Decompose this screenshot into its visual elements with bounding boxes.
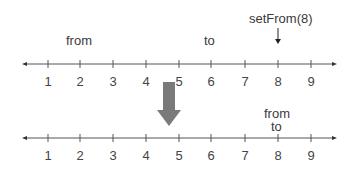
bottom-tick-label: 8: [274, 149, 281, 162]
set-from-call-label: setFrom(8): [249, 12, 313, 25]
top-tick-label: 6: [207, 75, 214, 88]
bottom-tick-label: 5: [175, 149, 182, 162]
bottom-tick-label: 4: [142, 149, 149, 162]
set-from-pointer-arrow: [275, 28, 281, 44]
bottom-tick-label: 1: [44, 149, 51, 162]
top-to-label: to: [204, 34, 215, 47]
top-number-line: [22, 60, 337, 68]
top-tick-label: 4: [142, 75, 149, 88]
top-tick-label: 5: [175, 75, 182, 88]
top-tick-label: 8: [274, 75, 281, 88]
bottom-tick-label: 2: [76, 149, 83, 162]
top-tick-label: 1: [44, 75, 51, 88]
top-tick-label: 9: [307, 75, 314, 88]
top-from-label: from: [66, 34, 92, 47]
bottom-number-line: [22, 134, 337, 142]
bottom-tick-label: 7: [241, 149, 248, 162]
bottom-tick-label: 3: [109, 149, 116, 162]
top-tick-label: 7: [241, 75, 248, 88]
bottom-to-label: to: [271, 120, 282, 133]
top-tick-label: 2: [76, 75, 83, 88]
top-tick-label: 3: [109, 75, 116, 88]
bottom-tick-label: 6: [207, 149, 214, 162]
bottom-tick-label: 9: [307, 149, 314, 162]
